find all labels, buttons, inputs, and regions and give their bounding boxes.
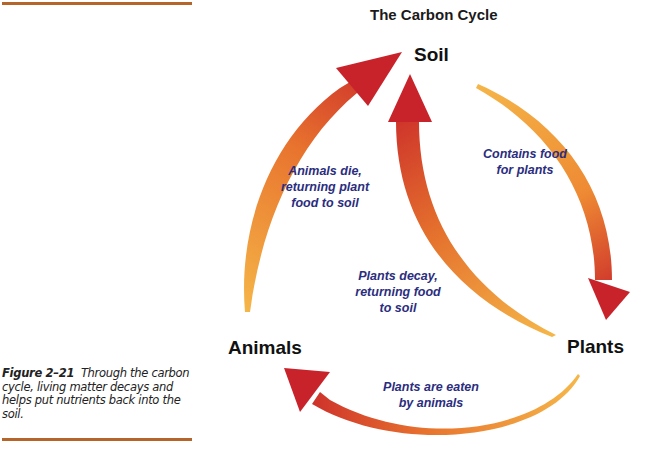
label-line: Animals die, <box>265 163 385 179</box>
node-animals: Animals <box>228 337 302 359</box>
diagram-title: The Carbon Cycle <box>370 6 498 23</box>
label-plants-to-soil: Plants decay, returning food to soil <box>338 268 458 316</box>
label-line: to soil <box>338 300 458 316</box>
label-line: by animals <box>366 395 496 411</box>
label-line: Plants decay, <box>338 268 458 284</box>
node-plants: Plants <box>567 336 624 358</box>
label-line: for plants <box>465 162 585 178</box>
carbon-cycle-arrows <box>0 0 667 459</box>
label-line: Contains food <box>465 146 585 162</box>
label-line: food to soil <box>265 195 385 211</box>
label-soil-to-plants: Contains food for plants <box>465 146 585 178</box>
label-line: Plants are eaten <box>366 379 496 395</box>
arrow-soil-to-plants <box>476 84 630 320</box>
node-soil: Soil <box>414 44 449 66</box>
label-line: returning food <box>338 284 458 300</box>
label-animals-to-soil: Animals die, returning plant food to soi… <box>265 163 385 211</box>
label-plants-to-animals: Plants are eaten by animals <box>366 379 496 411</box>
label-line: returning plant <box>265 179 385 195</box>
